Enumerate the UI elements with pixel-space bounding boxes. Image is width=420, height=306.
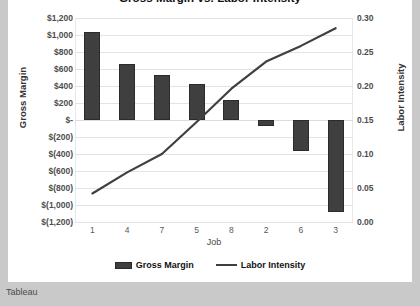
- y-axis-right-tick-label: 0.20: [357, 82, 417, 91]
- legend-bar-swatch-icon: [115, 262, 132, 269]
- y-axis-right-tick-label: 0.00: [357, 218, 417, 227]
- x-axis-tick-label: 6: [299, 225, 304, 235]
- y-axis-right-tick-label: 0.05: [357, 184, 417, 193]
- chart-container: Gross Margin vs. Labor Intensity $1,200$…: [8, 0, 412, 286]
- legend-item[interactable]: Gross Margin: [115, 260, 194, 270]
- legend-item[interactable]: Labor Intensity: [216, 260, 306, 270]
- footer-bar: Tableau: [0, 282, 420, 306]
- y-axis-left-tick-label: $(1,200): [13, 218, 73, 227]
- screenshot-root: Gross Margin vs. Labor Intensity $1,200$…: [0, 0, 420, 306]
- y-axis-left-tick-label: $1,000: [13, 31, 73, 40]
- tableau-label: Tableau: [6, 287, 38, 297]
- x-axis-title: Job: [75, 237, 353, 247]
- chart-title: Gross Margin vs. Labor Intensity: [8, 0, 412, 4]
- x-axis-tick-label: 7: [160, 225, 165, 235]
- y-axis-left-tick-label: $(800): [13, 184, 73, 193]
- x-axis-tick-label: 1: [90, 225, 95, 235]
- legend-label: Gross Margin: [136, 260, 194, 270]
- x-axis-tick-label: 3: [333, 225, 338, 235]
- y-axis-right-tick-label: 0.25: [357, 48, 417, 57]
- y-axis-right-tick-label: 0.30: [357, 14, 417, 23]
- x-axis-tick-label: 8: [229, 225, 234, 235]
- x-axis-tick-label: 4: [125, 225, 130, 235]
- x-axis-tick-label: 5: [194, 225, 199, 235]
- y-axis-left-tick-label: $1,200: [13, 14, 73, 23]
- y-axis-left-tick-label: $800: [13, 48, 73, 57]
- legend-line-swatch-icon: [216, 264, 237, 266]
- y-axis-right-ticks: 0.300.250.200.150.100.050.00: [357, 18, 417, 222]
- y-axis-left-tick-label: $(600): [13, 167, 73, 176]
- chart-legend: Gross MarginLabor Intensity: [8, 260, 412, 270]
- line-path: [92, 28, 335, 193]
- y-axis-right-tick-label: 0.15: [357, 116, 417, 125]
- gridline: [75, 222, 353, 223]
- legend-label: Labor Intensity: [241, 260, 306, 270]
- y-axis-left-title: Gross Margin: [17, 58, 28, 138]
- y-axis-left-tick-label: $(1,000): [13, 201, 73, 210]
- y-axis-left-tick-label: $(400): [13, 150, 73, 159]
- y-axis-right-title: Labor Intensity: [395, 58, 406, 138]
- y-axis-right-tick-label: 0.10: [357, 150, 417, 159]
- x-axis-tick-label: 2: [264, 225, 269, 235]
- plot-area: [75, 18, 353, 222]
- line-series-labor-intensity: [75, 18, 353, 222]
